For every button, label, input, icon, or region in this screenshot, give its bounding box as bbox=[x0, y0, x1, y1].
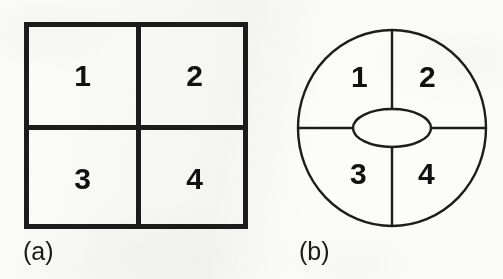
square-outline: 1 2 3 4 bbox=[24, 22, 248, 229]
circle-quadrant-label-4: 4 bbox=[418, 159, 435, 189]
square-quadrant-top-right: 2 bbox=[141, 27, 248, 125]
circle-quadrant-label-3: 3 bbox=[350, 159, 367, 189]
circle-quadrant-label-2: 2 bbox=[419, 62, 436, 92]
square-quadrant-label-3: 3 bbox=[74, 164, 91, 194]
square-quadrant-bottom-left: 3 bbox=[29, 130, 136, 228]
square-quadrant-label-1: 1 bbox=[74, 61, 91, 91]
circle-outline bbox=[292, 24, 492, 232]
caption-panel-b: (b) bbox=[299, 237, 330, 266]
panel-square-diagram: 1 2 3 4 (a) bbox=[0, 0, 270, 279]
circle-center-ellipse bbox=[353, 109, 431, 147]
square-quadrant-bottom-right: 4 bbox=[141, 130, 248, 228]
square-quadrant-label-4: 4 bbox=[186, 164, 203, 194]
circle-quadrant-label-1: 1 bbox=[351, 62, 368, 92]
square-quadrant-top-left: 1 bbox=[29, 27, 136, 125]
figure-root: 1 2 3 4 (a) 1 bbox=[0, 0, 503, 279]
panel-circle-diagram: 1 2 3 4 (b) bbox=[270, 0, 503, 279]
square-quadrant-label-2: 2 bbox=[186, 61, 203, 91]
caption-panel-a: (a) bbox=[23, 237, 54, 266]
